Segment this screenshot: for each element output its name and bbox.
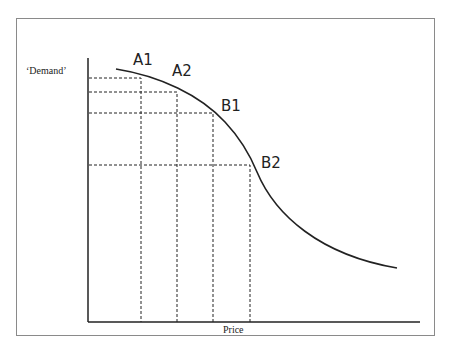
a2-projection <box>89 92 177 322</box>
label-a1: A1 <box>133 51 153 69</box>
a1-projection <box>89 78 141 322</box>
demand-diagram: A1 A2 B1 B2 ‘Demand’ Price <box>0 0 453 353</box>
b2-projection <box>89 165 250 322</box>
demand-curve <box>116 69 397 268</box>
x-axis-label: Price <box>223 324 244 335</box>
label-b1: B1 <box>221 97 241 115</box>
y-axis-label: ‘Demand’ <box>26 65 67 76</box>
label-a2: A2 <box>172 62 192 80</box>
b1-projection <box>89 113 213 322</box>
label-b2: B2 <box>261 154 281 172</box>
